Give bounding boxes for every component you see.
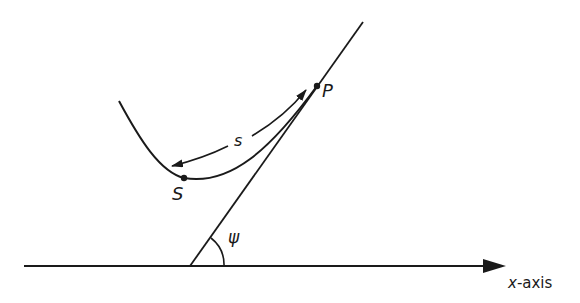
x-axis bbox=[24, 259, 506, 273]
x-axis-suffix: -axis bbox=[517, 274, 552, 292]
point-P-label: P bbox=[322, 82, 333, 100]
diagram-canvas bbox=[0, 0, 580, 303]
arc-length-label: s bbox=[234, 133, 242, 149]
arc-length-arrow-lower bbox=[172, 146, 228, 166]
x-axis-label: x-axis bbox=[508, 276, 552, 291]
curve bbox=[119, 86, 317, 179]
x-axis-arrowhead-icon bbox=[483, 259, 506, 273]
angle-arc bbox=[211, 238, 224, 266]
tangent-line bbox=[190, 22, 363, 266]
point-S-label: S bbox=[172, 185, 183, 203]
angle-psi-label: ψ bbox=[228, 229, 239, 246]
point-P-dot-icon bbox=[314, 83, 320, 89]
point-S-dot-icon bbox=[181, 175, 187, 181]
x-axis-variable: x bbox=[508, 274, 517, 292]
